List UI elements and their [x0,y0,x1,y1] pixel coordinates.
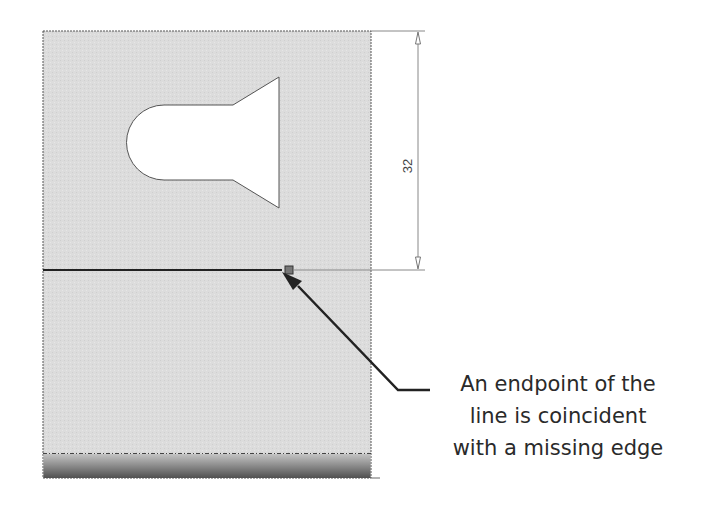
callout-line-3: with a missing edge [422,432,694,464]
arrow-up-icon [416,32,421,44]
plate [43,31,380,478]
dimension-value[interactable]: 32 [398,156,418,176]
callout-line-1: An endpoint of the [422,368,694,400]
callout-text: An endpoint of the line is coincident wi… [422,368,694,464]
endpoint-marker-icon[interactable] [285,266,293,274]
arrow-down-icon [416,257,421,269]
callout-line-2: line is coincident [422,400,694,432]
